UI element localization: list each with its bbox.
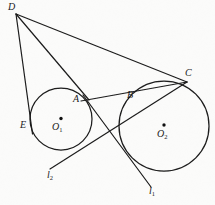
label-line-l2: l2: [47, 170, 53, 180]
segment-d-a: [16, 14, 89, 100]
center-dot-o2: [162, 123, 165, 126]
label-line-l1: l1: [149, 186, 155, 196]
tangent-line-l2: [50, 82, 187, 169]
geometry-figure: D C A B E O1 O2 l1 l2: [0, 0, 215, 205]
label-center-o2-sub: 2: [164, 133, 167, 140]
label-point-e: E: [20, 120, 26, 130]
label-line-l1-sub: 1: [152, 190, 155, 197]
geometry-canvas: [0, 0, 215, 205]
label-point-c: C: [185, 68, 192, 78]
label-point-b: B: [127, 90, 133, 100]
label-center-o1-sub: 1: [59, 126, 62, 133]
label-center-o1: O1: [52, 122, 62, 132]
label-line-l2-sub: 2: [50, 174, 53, 181]
center-dot-o1: [59, 117, 62, 120]
label-point-a: A: [73, 94, 79, 104]
label-center-o2: O2: [157, 129, 167, 139]
label-point-d: D: [8, 2, 15, 12]
segment-d-e: [16, 14, 33, 134]
segment-d-c: [16, 14, 187, 82]
